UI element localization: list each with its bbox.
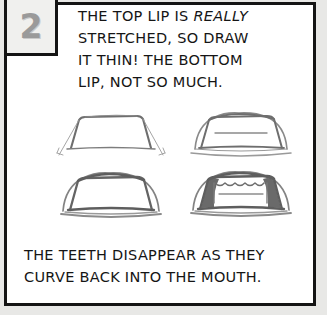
instruction-line-4: LIP, NOT SO MUCH. xyxy=(78,71,308,93)
instruction-text: THE TOP LIP IS REALLY STRETCHED, SO DRAW… xyxy=(78,5,308,93)
instruction-emphasis: REALLY xyxy=(193,8,248,24)
sketch-mouth-lips-outline xyxy=(175,103,305,167)
sketch-mouth-construction-outline xyxy=(45,103,175,167)
instruction-line-1: THE TOP LIP IS REALLY xyxy=(78,5,308,27)
tutorial-panel: 2 THE TOP LIP IS REALLY STRETCHED, SO DR… xyxy=(0,0,327,315)
instruction-line-1-before: THE TOP LIP IS xyxy=(78,8,193,24)
instruction-line-2: STRETCHED, SO DRAW xyxy=(78,27,308,49)
sketch-grid xyxy=(7,103,305,235)
step-number: 2 xyxy=(20,10,43,43)
sketch-mouth-with-teeth-shaded xyxy=(175,165,305,229)
sketch-mouth-lips-refined xyxy=(45,165,175,229)
step-number-box: 2 xyxy=(4,0,58,56)
instruction-line-3: IT THIN! THE BOTTOM xyxy=(78,49,308,71)
caption-line-1: THE TEETH DISAPPEAR AS THEY xyxy=(24,244,302,266)
caption-line-2: CURVE BACK INTO THE MOUTH. xyxy=(24,266,302,288)
caption-text: THE TEETH DISAPPEAR AS THEY CURVE BACK I… xyxy=(24,244,302,288)
